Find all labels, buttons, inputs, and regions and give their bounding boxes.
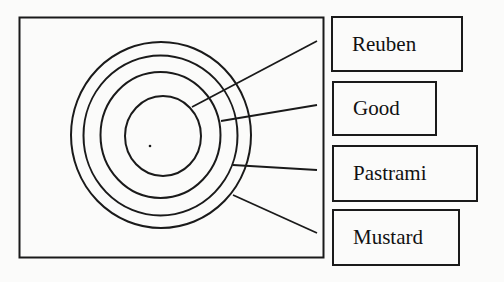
leader-lines [192,41,317,233]
inner-ring-1 [125,96,201,176]
diagram-frame [20,18,324,258]
leader-line-mustard [233,195,317,233]
outer-ring-4 [71,42,251,228]
ring-3 [84,56,238,216]
label-box-reuben[interactable]: Reuben [331,16,463,72]
center-dot [149,145,152,148]
concentric-circles [71,42,251,228]
label-box-good[interactable]: Good [332,81,437,136]
ring-2 [101,72,221,198]
label-text: Pastrami [353,163,427,184]
label-text: Reuben [352,34,416,55]
label-box-mustard[interactable]: Mustard [332,209,460,266]
label-box-pastrami[interactable]: Pastrami [332,145,478,202]
label-text: Good [353,98,400,119]
label-text: Mustard [353,227,423,248]
